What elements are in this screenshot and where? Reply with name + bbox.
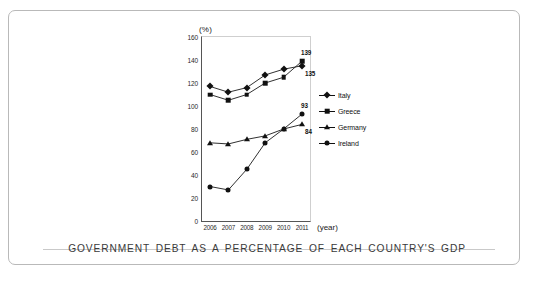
data-point-greece bbox=[245, 92, 250, 97]
data-point-germany bbox=[207, 140, 213, 145]
legend-item-italy[interactable]: Italy bbox=[319, 87, 371, 103]
y-axis-tick-label: 140 bbox=[172, 57, 198, 64]
legend-marker-circle-icon bbox=[319, 139, 335, 148]
data-point-greece bbox=[208, 92, 213, 97]
y-axis-tick-label: 80 bbox=[172, 126, 198, 133]
y-axis-tick-label: 100 bbox=[172, 103, 198, 110]
x-axis-tick-label: 2008 bbox=[240, 224, 253, 231]
y-axis-tick-label: 60 bbox=[172, 149, 198, 156]
data-point-greece bbox=[300, 59, 305, 64]
data-point-greece bbox=[226, 98, 231, 103]
x-axis-tick-label: 2010 bbox=[277, 224, 290, 231]
data-point-ireland bbox=[244, 167, 249, 172]
data-point-germany bbox=[225, 141, 231, 146]
value-label-italy: 135 bbox=[305, 70, 315, 77]
legend-item-greece[interactable]: Greece bbox=[319, 103, 371, 119]
y-axis-tick-label: 40 bbox=[172, 172, 198, 179]
data-point-germany bbox=[244, 137, 250, 142]
legend-item-ireland[interactable]: Ireland bbox=[319, 135, 371, 151]
x-axis-tick-label: 2007 bbox=[222, 224, 235, 231]
y-axis-tick-label: 0 bbox=[172, 218, 198, 225]
series-line-ireland bbox=[210, 114, 302, 190]
value-label-ireland: 93 bbox=[301, 102, 308, 109]
legend-marker-diamond-icon bbox=[319, 91, 335, 100]
series-line-germany bbox=[210, 124, 302, 144]
y-axis-tick-label: 120 bbox=[172, 80, 198, 87]
data-point-greece bbox=[281, 75, 286, 80]
legend-label: Ireland bbox=[338, 140, 359, 147]
figure-caption: GOVERNMENT DEBT AS A PERCENTAGE OF EACH … bbox=[0, 243, 534, 254]
y-axis-tick-label: 160 bbox=[172, 34, 198, 41]
chart-legend: ItalyGreeceGermanyIreland bbox=[319, 87, 371, 151]
plot-area: 1351398493 bbox=[201, 36, 311, 222]
legend-label: Germany bbox=[338, 124, 366, 131]
data-point-germany bbox=[299, 122, 305, 127]
x-axis-ticks: 200620072008200920102011 bbox=[201, 224, 313, 236]
x-axis-tick-label: 2009 bbox=[259, 224, 272, 231]
x-axis-tick-label: 2011 bbox=[296, 224, 309, 231]
value-label-germany: 84 bbox=[305, 128, 312, 135]
chart-figure: (%) 020406080100120140160 1351398493 200… bbox=[169, 25, 369, 241]
y-axis-tick-label: 20 bbox=[172, 195, 198, 202]
series-line-greece bbox=[210, 61, 302, 100]
y-axis-unit-label: (%) bbox=[199, 25, 212, 34]
data-point-germany bbox=[262, 133, 268, 138]
data-point-ireland bbox=[281, 127, 286, 132]
series-lines bbox=[202, 37, 310, 221]
legend-item-germany[interactable]: Germany bbox=[319, 119, 371, 135]
data-point-ireland bbox=[300, 112, 305, 117]
data-point-ireland bbox=[208, 184, 213, 189]
legend-marker-triangle-icon bbox=[319, 123, 335, 132]
document-frame: (%) 020406080100120140160 1351398493 200… bbox=[8, 10, 520, 265]
data-point-ireland bbox=[263, 140, 268, 145]
x-axis-tick-label: 2006 bbox=[203, 224, 216, 231]
x-axis-title: (year) bbox=[317, 223, 338, 232]
legend-label: Italy bbox=[338, 92, 350, 99]
legend-marker-square-icon bbox=[319, 107, 335, 116]
y-axis-ticks: 020406080100120140160 bbox=[169, 36, 198, 222]
data-point-greece bbox=[263, 81, 268, 86]
data-point-ireland bbox=[226, 187, 231, 192]
value-label-greece: 139 bbox=[301, 49, 311, 56]
legend-label: Greece bbox=[338, 108, 360, 115]
